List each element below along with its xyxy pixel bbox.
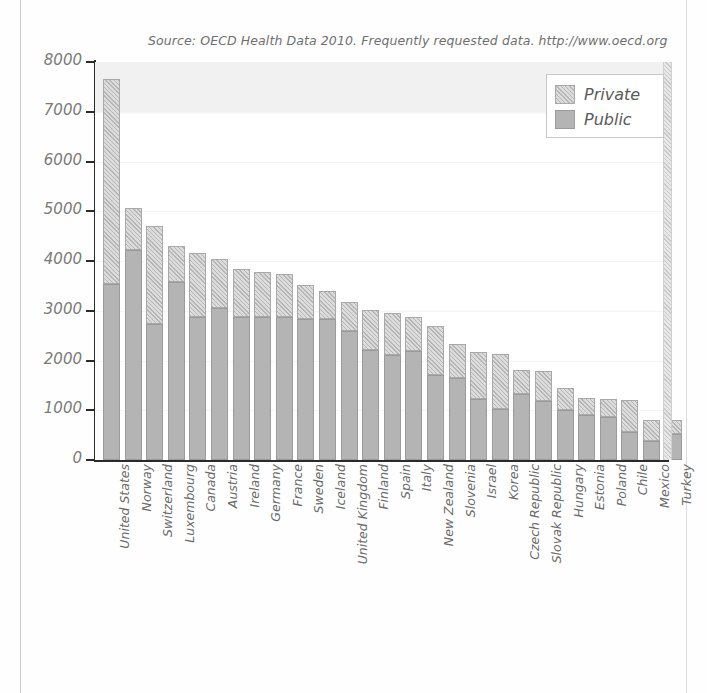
gridline: [95, 162, 668, 163]
bar-segment-public: [535, 401, 552, 460]
bar-segment-private: [470, 352, 487, 399]
bar[interactable]: [189, 253, 206, 460]
x-tick-label: France: [290, 464, 305, 506]
bar[interactable]: [492, 354, 509, 460]
bar-segment-public: [384, 355, 401, 460]
bar[interactable]: [211, 259, 228, 460]
bar[interactable]: [535, 371, 552, 460]
x-tick-label: Slovak Republic: [549, 464, 564, 563]
bar-segment-public: [643, 441, 660, 460]
bar[interactable]: [276, 274, 293, 460]
x-tick-label: Italy: [419, 464, 434, 491]
source-note: Source: OECD Health Data 2010. Frequentl…: [148, 33, 667, 48]
bar[interactable]: [427, 326, 444, 460]
bar-segment-public: [362, 350, 379, 460]
bar[interactable]: [254, 272, 271, 460]
bar[interactable]: [341, 302, 358, 460]
y-tick-mark: [86, 61, 95, 63]
bar[interactable]: [297, 285, 314, 460]
x-tick-label: Estonia: [592, 464, 607, 510]
x-tick-label: Mexico: [657, 464, 672, 508]
bar-segment-private: [621, 400, 638, 432]
bar-segment-private: [535, 371, 552, 401]
x-tick-label: Luxembourg: [182, 464, 197, 543]
x-tick-label: Sweden: [311, 464, 326, 513]
y-tick-label: 3000: [22, 300, 82, 318]
y-tick-label: 7000: [22, 101, 82, 119]
x-tick-label: New Zealand: [441, 464, 456, 546]
bar-segment-public: [449, 378, 466, 460]
bar-segment-public: [405, 351, 422, 460]
x-tick-label: United States: [117, 464, 132, 549]
y-tick-label: 0: [22, 449, 82, 467]
bar[interactable]: [146, 226, 163, 460]
x-tick-label: Austria: [225, 464, 240, 508]
y-tick-mark: [86, 409, 95, 411]
bar-segment-public: [600, 417, 617, 460]
bar-segment-private: [189, 253, 206, 317]
x-axis-labels: United StatesNorwaySwitzerlandLuxembourg…: [95, 464, 675, 624]
bar-segment-public: [621, 432, 638, 460]
bar-segment-public: [427, 375, 444, 460]
x-tick-label: Korea: [506, 464, 521, 500]
bar[interactable]: [643, 420, 660, 460]
bar-segment-private: [600, 399, 617, 417]
bar-segment-public: [146, 324, 163, 460]
bar-segment-private: [384, 313, 401, 355]
bar-segment-private: [233, 269, 250, 317]
bar-segment-public: [513, 394, 530, 460]
legend: Private Public: [546, 74, 664, 138]
bar[interactable]: [621, 400, 638, 460]
plot-right-edge-band: [663, 62, 672, 460]
legend-item-private[interactable]: Private: [555, 82, 655, 107]
bar-segment-private: [319, 291, 336, 319]
x-tick-label: Iceland: [333, 464, 348, 509]
bar[interactable]: [449, 344, 466, 460]
bar-segment-public: [276, 317, 293, 460]
bar-segment-public: [189, 317, 206, 460]
bar-segment-public: [233, 317, 250, 460]
bar-segment-private: [254, 272, 271, 317]
bar-segment-private: [427, 326, 444, 376]
bar[interactable]: [557, 388, 574, 460]
bar[interactable]: [384, 313, 401, 460]
bar-segment-public: [341, 331, 358, 460]
bar[interactable]: [233, 269, 250, 460]
bar[interactable]: [103, 79, 120, 460]
y-tick-label: 2000: [22, 350, 82, 368]
bar-segment-public: [578, 415, 595, 460]
y-tick-mark: [86, 111, 95, 113]
bar[interactable]: [362, 310, 379, 460]
legend-label-public: Public: [584, 110, 632, 129]
bar-segment-private: [578, 398, 595, 415]
bar-segment-private: [276, 274, 293, 316]
x-tick-label: Chile: [635, 464, 650, 495]
y-axis-labels: 800070006000500040003000200010000: [20, 0, 82, 693]
bar[interactable]: [125, 208, 142, 460]
y-tick-label: 5000: [22, 200, 82, 218]
bar-segment-public: [125, 250, 142, 460]
y-tick-label: 4000: [22, 250, 82, 268]
bar[interactable]: [600, 399, 617, 460]
bar-segment-public: [297, 319, 314, 460]
bar[interactable]: [470, 352, 487, 460]
legend-item-public[interactable]: Public: [555, 107, 655, 132]
y-tick-label: 8000: [22, 51, 82, 69]
bar[interactable]: [168, 246, 185, 460]
x-tick-label: Ireland: [247, 464, 262, 508]
bar-segment-public: [254, 317, 271, 460]
bar-segment-private: [449, 344, 466, 378]
x-tick-label: Canada: [203, 464, 218, 512]
bar[interactable]: [319, 291, 336, 460]
bar-segment-private: [146, 226, 163, 324]
bar-segment-private: [557, 388, 574, 409]
bar[interactable]: [405, 317, 422, 460]
bar[interactable]: [513, 370, 530, 460]
x-tick-label: Switzerland: [160, 464, 175, 537]
bar-segment-private: [125, 208, 142, 250]
bar-segment-private: [492, 354, 509, 409]
y-tick-label: 6000: [22, 151, 82, 169]
x-tick-label: Poland: [614, 464, 629, 506]
bar-segment-public: [103, 284, 120, 460]
bar[interactable]: [578, 398, 595, 460]
